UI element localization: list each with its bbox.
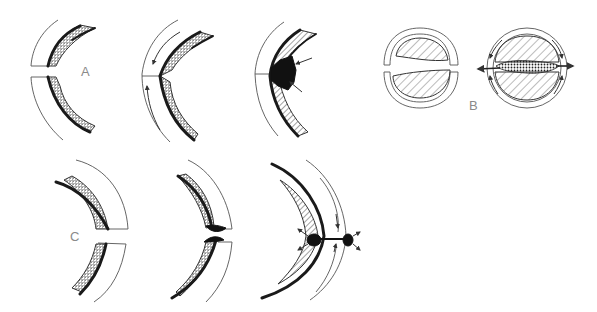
diagram-canvas: A: [0, 0, 597, 312]
radiating-arrow: [353, 232, 360, 236]
panel-a-stage-3: [255, 22, 316, 136]
panel-a-stage-1: [31, 20, 95, 140]
nodule-left: [307, 234, 321, 246]
hatched-half-upper: [396, 38, 448, 61]
dark-tip-upper: [206, 225, 226, 231]
dark-tip-lower: [204, 237, 224, 242]
inward-arrow-upper: [296, 58, 312, 64]
panel-c-stage-3: [262, 160, 360, 300]
panel-c-stage-2: [172, 160, 232, 302]
panel-a-stage-2: [142, 20, 213, 142]
tissue-wall: [278, 180, 318, 284]
label-a: A: [81, 64, 90, 79]
tissue-lower: [48, 77, 95, 132]
nodule-right: [343, 234, 353, 246]
tissue-lower: [160, 76, 198, 140]
panel-c-stage-1: [56, 160, 128, 302]
tissue-upper: [64, 176, 108, 229]
hatched-half-upper: [495, 36, 559, 62]
outward-arrow-left: [478, 68, 500, 69]
closure-arrow-up: [147, 86, 160, 130]
panel-b-stage-1: [384, 28, 458, 108]
inward-arrow-lower: [290, 82, 302, 92]
label-c: C: [70, 229, 79, 244]
hatched-half-lower: [495, 72, 559, 100]
panel-b-stage-2: [478, 28, 573, 108]
tissue-lower: [176, 240, 216, 296]
label-b: B: [469, 98, 478, 113]
radiating-arrow: [353, 244, 360, 250]
hatched-half-lower: [393, 70, 450, 98]
